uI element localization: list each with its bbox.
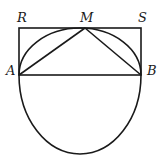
geometry-diagram: R M S A B: [0, 0, 165, 158]
label-a: A: [5, 63, 15, 78]
label-s: S: [138, 10, 147, 25]
diagram-canvas: R M S A B: [0, 0, 165, 158]
rectangle-rsba: [19, 28, 141, 75]
label-m: M: [79, 10, 94, 25]
segment-ma: [19, 28, 85, 75]
circle-upper-arc: [19, 28, 141, 75]
circle-lower-arc: [19, 75, 141, 154]
label-b: B: [146, 63, 157, 78]
label-r: R: [16, 10, 27, 25]
